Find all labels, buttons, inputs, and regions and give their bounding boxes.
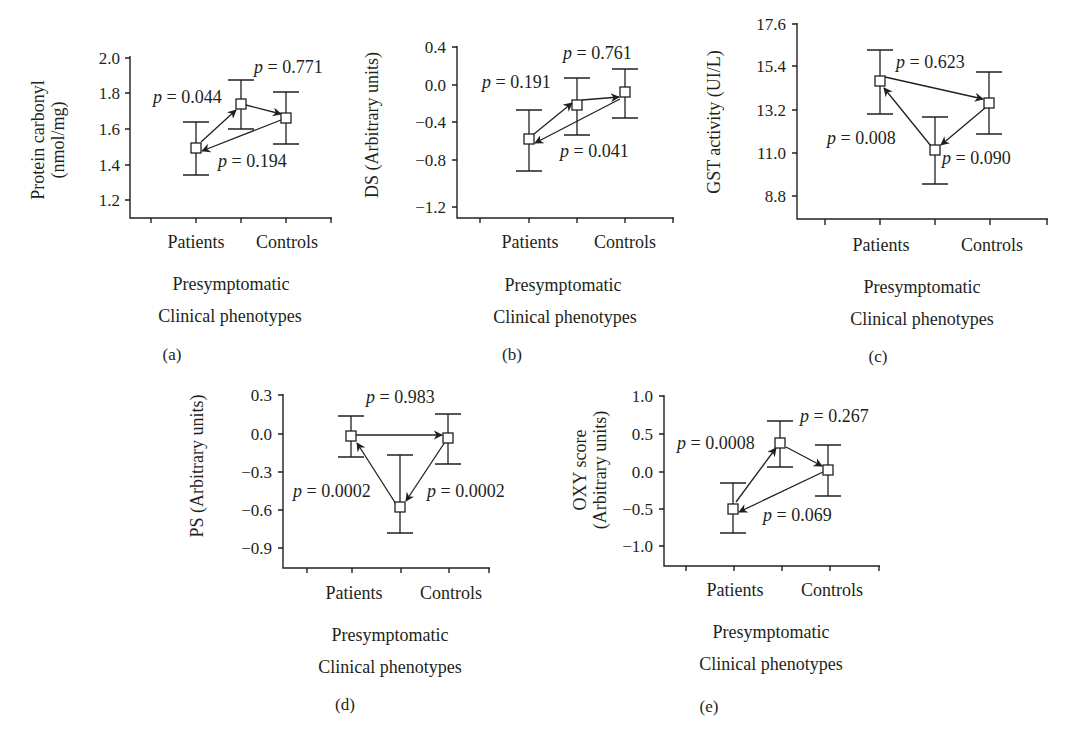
y-tick-label: −0.6 bbox=[241, 501, 272, 520]
x-group-label: Presymptomatic bbox=[713, 622, 830, 642]
p-value-label: p = 0.0002 bbox=[425, 481, 505, 501]
x-ticks bbox=[151, 218, 331, 223]
panel-b: DS (Arbitrary units) 0.4 0.0 −0.4 −0.8 −… bbox=[362, 38, 674, 364]
y-tick-label: −0.5 bbox=[622, 500, 653, 519]
p-value-label: p = 0.761 bbox=[561, 43, 632, 63]
p-value-label: p = 0.0002 bbox=[291, 481, 371, 501]
y-tick-label: −0.9 bbox=[241, 539, 272, 558]
y-tick-label: 1.6 bbox=[99, 120, 120, 139]
y-axis-title: PS (Arbitrary units) bbox=[187, 395, 208, 538]
p-value-label: p = 0.194 bbox=[216, 151, 287, 171]
point-patients bbox=[524, 134, 534, 144]
y-tick-label: −1.2 bbox=[415, 198, 446, 217]
y-axis-title-line-2: (Arbitrary units) bbox=[590, 411, 611, 529]
y-tick-label: −0.3 bbox=[241, 463, 272, 482]
p-value-label: p = 0.090 bbox=[940, 148, 1011, 168]
x-axis-title: Clinical phenotypes bbox=[158, 306, 301, 326]
panel-d: PS (Arbitrary units) 0.3 0.0 −0.3 −0.6 −… bbox=[187, 386, 505, 714]
x-category-label: Patients bbox=[853, 235, 910, 255]
y-tick-label: 0.0 bbox=[632, 463, 653, 482]
panel-letter: (b) bbox=[502, 345, 522, 364]
x-group-label: Presymptomatic bbox=[173, 274, 290, 294]
y-tick-label: −1.0 bbox=[622, 537, 653, 556]
x-group-label: Presymptomatic bbox=[505, 275, 622, 295]
y-tick-label: 0.3 bbox=[251, 386, 272, 405]
p-value-label: p = 0.191 bbox=[480, 72, 551, 92]
error-bar-presymptomatic bbox=[387, 455, 413, 533]
y-tick-label: 1.8 bbox=[99, 84, 120, 103]
y-ticks bbox=[452, 47, 457, 207]
x-category-label: Patients bbox=[168, 232, 225, 252]
x-ticks bbox=[825, 219, 1047, 225]
x-category-label: Controls bbox=[256, 232, 318, 252]
y-axis-title-line-1: OXY score bbox=[570, 430, 590, 511]
y-tick-label: 0.0 bbox=[251, 425, 272, 444]
arrow-presymptomatic-to-controls bbox=[582, 97, 619, 100]
panel-letter: (a) bbox=[163, 345, 182, 364]
x-category-label: Patients bbox=[502, 232, 559, 252]
arrow-presymptomatic-to-controls bbox=[786, 447, 822, 466]
p-value-label: p = 0.069 bbox=[761, 505, 832, 525]
point-controls bbox=[281, 113, 291, 123]
y-tick-label: 1.0 bbox=[632, 387, 653, 406]
p-value-label: p = 0.623 bbox=[894, 52, 965, 72]
panel-letter: (c) bbox=[869, 347, 888, 366]
x-group-label: Presymptomatic bbox=[864, 277, 981, 297]
x-category-label: Patients bbox=[707, 580, 764, 600]
y-tick-label: 1.2 bbox=[99, 191, 120, 210]
x-axis-title: Clinical phenotypes bbox=[318, 657, 461, 677]
x-category-label: Controls bbox=[594, 232, 656, 252]
point-presymptomatic bbox=[930, 145, 940, 155]
point-controls bbox=[620, 87, 630, 97]
p-value-label: p = 0.044 bbox=[151, 87, 222, 107]
point-presymptomatic bbox=[395, 502, 405, 512]
y-tick-label: 8.8 bbox=[765, 187, 786, 206]
y-tick-label: 0.4 bbox=[425, 38, 447, 57]
p-value-label: p = 0.008 bbox=[825, 128, 896, 148]
y-tick-label: −0.8 bbox=[415, 151, 446, 170]
x-ticks bbox=[307, 568, 489, 573]
p-value-label: p = 0.983 bbox=[364, 387, 435, 407]
y-ticks bbox=[659, 396, 664, 546]
x-category-label: Patients bbox=[326, 583, 383, 603]
y-axis-title-line-1: Protein carbonyl bbox=[28, 80, 48, 199]
arrow-presymptomatic-to-controls bbox=[246, 105, 281, 114]
x-axis-title: Clinical phenotypes bbox=[493, 307, 636, 327]
arrow-patients-to-presymptomatic bbox=[534, 103, 572, 134]
y-ticks bbox=[278, 395, 283, 548]
x-axis-title: Clinical phenotypes bbox=[850, 309, 993, 329]
arrow-patients-to-presymptomatic bbox=[201, 110, 236, 142]
x-category-label: Controls bbox=[801, 580, 863, 600]
point-patients bbox=[728, 504, 738, 514]
arrow-patients-to-controls bbox=[885, 77, 983, 99]
point-patients bbox=[875, 76, 885, 86]
y-tick-label: 13.2 bbox=[756, 101, 786, 120]
x-category-label: Controls bbox=[961, 235, 1023, 255]
point-controls bbox=[443, 433, 453, 443]
y-axis-title: Protein carbonyl (nmol/mg) bbox=[28, 80, 69, 199]
panel-letter: (d) bbox=[335, 695, 355, 714]
y-tick-label: 0.5 bbox=[632, 425, 653, 444]
point-controls bbox=[823, 465, 833, 475]
point-presymptomatic bbox=[775, 438, 785, 448]
y-tick-label: 15.4 bbox=[756, 57, 786, 76]
y-axis-title: GST activity (UI/L) bbox=[704, 50, 725, 194]
y-tick-label: 1.4 bbox=[99, 156, 121, 175]
figure-canvas: Protein carbonyl (nmol/mg) 2.0 1.8 1.6 1… bbox=[0, 0, 1065, 738]
x-ticks bbox=[686, 566, 879, 571]
y-tick-label: 0.0 bbox=[425, 76, 446, 95]
p-value-label: p = 0.771 bbox=[252, 57, 323, 77]
x-ticks bbox=[480, 218, 673, 223]
panel-a: Protein carbonyl (nmol/mg) 2.0 1.8 1.6 1… bbox=[28, 49, 332, 364]
point-presymptomatic bbox=[236, 99, 246, 109]
point-controls bbox=[984, 98, 994, 108]
p-value-label: p = 0.041 bbox=[558, 141, 629, 161]
point-patients bbox=[346, 431, 356, 441]
y-ticks bbox=[792, 24, 797, 196]
x-group-label: Presymptomatic bbox=[332, 625, 449, 645]
y-axis-title: DS (Arbitrary units) bbox=[362, 52, 383, 198]
y-tick-label: 17.6 bbox=[756, 15, 786, 34]
panel-letter: (e) bbox=[700, 697, 719, 716]
p-value-label: p = 0.267 bbox=[798, 406, 869, 426]
y-tick-label: −0.4 bbox=[415, 113, 446, 132]
